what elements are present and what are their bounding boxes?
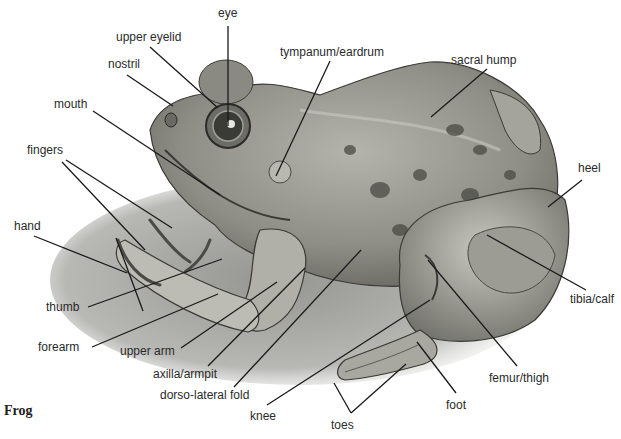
label-axilla: axilla/armpit <box>153 367 217 381</box>
label-upper-eyelid: upper eyelid <box>116 30 181 44</box>
tympanum-shape <box>269 161 291 183</box>
label-thumb: thumb <box>46 300 79 314</box>
label-femur-thigh: femur/thigh <box>489 371 549 385</box>
label-tibia-calf: tibia/calf <box>570 292 614 306</box>
label-fingers: fingers <box>27 143 63 157</box>
nostril-shape <box>165 113 177 127</box>
label-heel: heel <box>578 161 601 175</box>
label-eye: eye <box>218 6 237 20</box>
diagram-title: Frog <box>4 403 33 419</box>
label-nostril: nostril <box>108 57 140 71</box>
label-forearm: forearm <box>38 340 79 354</box>
label-knee: knee <box>250 409 276 423</box>
label-sacral-hump: sacral hump <box>451 53 516 67</box>
label-hand: hand <box>14 219 41 233</box>
label-foot: foot <box>446 398 466 412</box>
label-tympanum-eardrum: tympanum/eardrum <box>280 45 384 59</box>
label-upper-arm: upper arm <box>120 344 175 358</box>
label-dorso-lateral-fold: dorso-lateral fold <box>160 388 249 402</box>
label-toes: toes <box>331 418 354 432</box>
label-mouth: mouth <box>54 97 87 111</box>
frog-anatomy-diagram: eye upper eyelid nostril mouth fingers h… <box>0 0 621 439</box>
